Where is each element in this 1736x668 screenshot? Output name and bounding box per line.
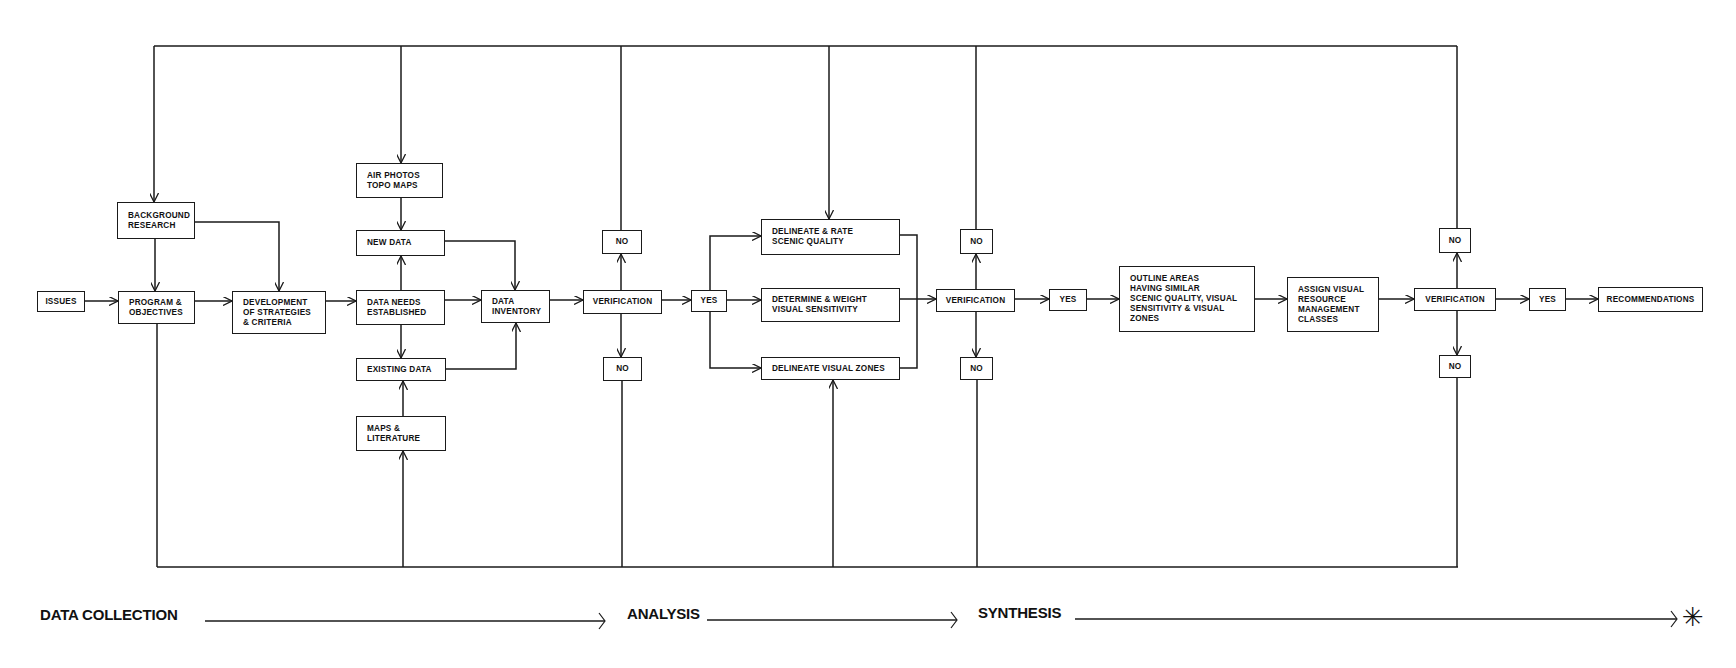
delineate-rate-box: DELINEATE & RATE SCENIC QUALITY (761, 219, 900, 255)
data-needs-box: DATA NEEDS ESTABLISHED (356, 290, 445, 325)
background-research-label: BACKGROUND RESEARCH (128, 211, 190, 231)
maps-literature-label: MAPS & LITERATURE (367, 424, 420, 444)
issues-box: ISSUES (37, 291, 85, 312)
verification-2-label: VERIFICATION (946, 296, 1006, 306)
verification-1-label: VERIFICATION (593, 297, 653, 307)
air-photos-label: AIR PHOTOS TOPO MAPS (367, 171, 420, 191)
outline-areas-label: OUTLINE AREAS HAVING SIMILAR SCENIC QUAL… (1130, 274, 1237, 324)
yes-3-label: YES (1539, 295, 1556, 305)
verification-3-label: VERIFICATION (1425, 295, 1485, 305)
delineate-zones-label: DELINEATE VISUAL ZONES (772, 364, 885, 374)
data-inventory-box: DATA INVENTORY (481, 290, 550, 323)
recommendations-label: RECOMMENDATIONS (1607, 295, 1695, 305)
maps-literature-box: MAPS & LITERATURE (356, 416, 446, 451)
no-2-bottom-label: NO (970, 364, 983, 374)
phase-data-collection: DATA COLLECTION (40, 606, 178, 623)
development-strategies-box: DEVELOPMENT OF STRATEGIES & CRITERIA (232, 291, 326, 334)
existing-data-box: EXISTING DATA (356, 358, 446, 381)
no-3-bottom-label: NO (1449, 362, 1462, 372)
no-3-bottom-box: NO (1439, 355, 1471, 378)
new-data-box: NEW DATA (356, 230, 445, 256)
no-1-bottom-label: NO (616, 364, 629, 374)
no-2-top-box: NO (960, 229, 993, 254)
program-objectives-box: PROGRAM & OBJECTIVES (118, 291, 195, 324)
delineate-zones-box: DELINEATE VISUAL ZONES (761, 357, 900, 380)
no-3-top-box: NO (1439, 228, 1471, 253)
development-strategies-label: DEVELOPMENT OF STRATEGIES & CRITERIA (243, 298, 311, 328)
verification-2-box: VERIFICATION (936, 289, 1015, 312)
background-research-box: BACKGROUND RESEARCH (117, 202, 195, 239)
verification-3-box: VERIFICATION (1414, 288, 1496, 311)
determine-weight-label: DETERMINE & WEIGHT VISUAL SENSITIVITY (772, 295, 867, 315)
recommendations-box: RECOMMENDATIONS (1598, 287, 1703, 312)
yes-1-box: YES (691, 290, 727, 312)
assign-classes-box: ASSIGN VISUAL RESOURCE MANAGEMENT CLASSE… (1287, 277, 1379, 332)
yes-2-label: YES (1060, 295, 1077, 305)
no-1-top-label: NO (616, 237, 629, 247)
issues-label: ISSUES (45, 297, 76, 307)
phase-analysis: ANALYSIS (627, 605, 700, 622)
yes-2-box: YES (1049, 289, 1087, 311)
no-2-top-label: NO (970, 237, 983, 247)
program-objectives-label: PROGRAM & OBJECTIVES (129, 298, 183, 318)
phase-synthesis: SYNTHESIS (978, 604, 1061, 621)
verification-1-box: VERIFICATION (583, 290, 662, 314)
assign-classes-label: ASSIGN VISUAL RESOURCE MANAGEMENT CLASSE… (1298, 285, 1364, 325)
no-1-top-box: NO (602, 230, 642, 254)
air-photos-box: AIR PHOTOS TOPO MAPS (356, 163, 443, 198)
delineate-rate-label: DELINEATE & RATE SCENIC QUALITY (772, 227, 853, 247)
yes-1-label: YES (701, 296, 718, 306)
flowchart-connectors (0, 0, 1736, 668)
determine-weight-box: DETERMINE & WEIGHT VISUAL SENSITIVITY (761, 288, 900, 322)
no-2-bottom-box: NO (960, 357, 993, 380)
no-1-bottom-box: NO (603, 357, 642, 381)
existing-data-label: EXISTING DATA (367, 365, 432, 375)
data-needs-label: DATA NEEDS ESTABLISHED (367, 298, 426, 318)
data-inventory-label: DATA INVENTORY (492, 297, 541, 317)
new-data-label: NEW DATA (367, 238, 412, 248)
outline-areas-box: OUTLINE AREAS HAVING SIMILAR SCENIC QUAL… (1119, 266, 1255, 332)
yes-3-box: YES (1529, 288, 1566, 311)
end-asterisk-icon: ✳ (1682, 602, 1704, 632)
no-3-top-label: NO (1449, 236, 1462, 246)
